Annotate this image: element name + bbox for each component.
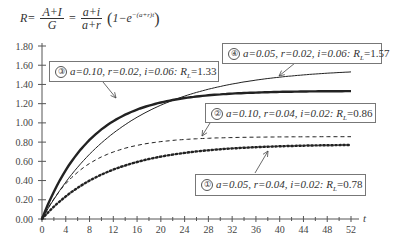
label-1-params: a=0.05, r=0.04, i=0.02:: [216, 178, 326, 190]
marker-1: ①: [201, 179, 213, 191]
label-1-value: =0.78: [337, 178, 362, 190]
x-tick-label: 24: [180, 224, 190, 235]
x-tick-label: 12: [108, 224, 118, 235]
series-label-3: ③a=0.10, r=0.02, i=0.06: RL=1.33: [49, 61, 219, 82]
arrow-2: [202, 123, 210, 136]
series-label-4: ④a=0.05, r=0.02, i=0.06: RL=1.57: [222, 43, 382, 64]
x-tick-label: 44: [298, 224, 308, 235]
marker-3: ③: [55, 66, 67, 78]
y-tick-label: 0.80: [16, 137, 34, 148]
x-tick-label: 16: [132, 224, 142, 235]
y-tick-label: 0.20: [16, 194, 34, 205]
marker-2: ②: [211, 108, 223, 120]
series-label-2: ②a=0.10, r=0.04, i=0.02: RL=0.86: [205, 103, 376, 123]
rl-symbol: R: [180, 65, 187, 77]
label-2-value: =0.86: [347, 107, 372, 119]
x-tick-label: 0: [40, 224, 45, 235]
arrow-3: [103, 82, 116, 98]
y-tick-label: 0.60: [16, 156, 34, 167]
label-4-params: a=0.05, r=0.02, i=0.06:: [243, 47, 353, 59]
x-tick-label: 4: [63, 224, 68, 235]
y-tick-label: 1.60: [16, 60, 34, 71]
marker-4: ④: [228, 48, 240, 60]
y-tick-label: 1.20: [16, 98, 34, 109]
x-tick-label: 28: [203, 224, 213, 235]
label-4-value: =1.57: [364, 47, 389, 59]
x-tick-label: 48: [322, 224, 332, 235]
rl-symbol: R: [353, 47, 360, 59]
y-tick-label: 1.00: [16, 117, 34, 128]
y-tick-label: 1.40: [16, 79, 34, 90]
x-tick-label: 20: [156, 224, 166, 235]
arrow-1: [255, 151, 268, 173]
label-3-params: a=0.10, r=0.02, i=0.06:: [70, 65, 180, 77]
x-tick-label: 36: [251, 224, 261, 235]
x-tick-label: 40: [275, 224, 285, 235]
x-tick-label: 32: [227, 224, 237, 235]
rl-symbol: R: [336, 107, 343, 119]
y-tick-label: 1.80: [16, 41, 34, 52]
rl-symbol: R: [326, 178, 333, 190]
label-3-value: =1.33: [191, 65, 216, 77]
x-axis-label: t: [363, 212, 367, 224]
series-label-1: ①a=0.05, r=0.04, i=0.02: RL=0.78: [195, 174, 366, 196]
y-tick-label: 0.00: [16, 214, 34, 225]
x-tick-label: 8: [87, 224, 92, 235]
x-tick-label: 52: [346, 224, 356, 235]
y-tick-label: 0.40: [16, 175, 34, 186]
label-2-params: a=0.10, r=0.04, i=0.02:: [226, 107, 336, 119]
